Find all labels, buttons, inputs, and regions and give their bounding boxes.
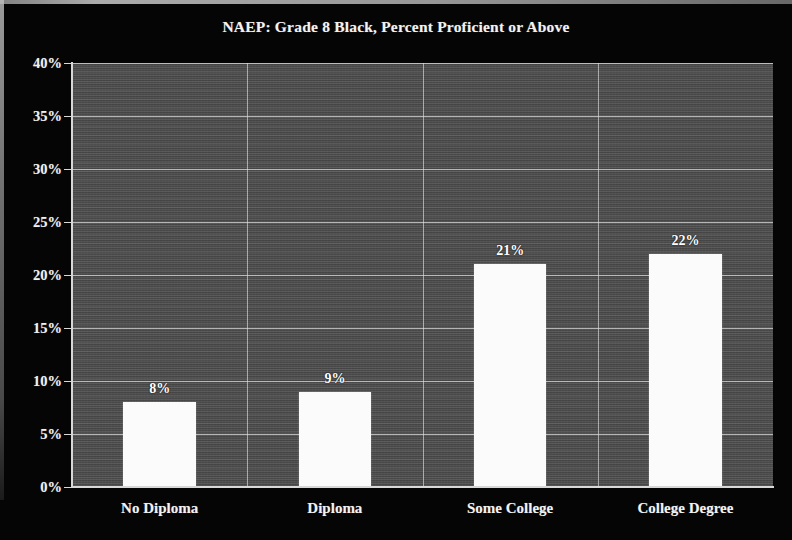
category-label: Diploma — [307, 500, 362, 517]
y-axis-tick — [64, 328, 72, 329]
chart-title: NAEP: Grade 8 Black, Percent Proficient … — [0, 18, 792, 36]
y-axis-tick-label: 0% — [4, 479, 62, 496]
gridline-vertical — [423, 63, 424, 487]
y-axis-tick — [64, 275, 72, 276]
bar — [649, 254, 722, 487]
x-axis-line — [71, 486, 774, 488]
y-axis-tick-label: 5% — [4, 426, 62, 443]
category-label: Some College — [467, 500, 553, 517]
bar-value-label: 21% — [496, 243, 524, 259]
y-axis-tick — [64, 487, 72, 488]
y-axis-tick — [64, 381, 72, 382]
y-axis-tick — [64, 222, 72, 223]
bar-value-label: 9% — [324, 371, 345, 387]
y-axis-tick — [64, 169, 72, 170]
bar-value-label: 22% — [671, 233, 699, 249]
y-axis-tick — [64, 63, 72, 64]
scan-edge-top — [0, 0, 792, 4]
y-axis-tick-label: 35% — [4, 108, 62, 125]
y-axis-tick-labels: 0%5%10%15%20%25%30%35%40% — [0, 0, 62, 540]
y-axis-tick — [64, 434, 72, 435]
bar-value-label: 8% — [149, 381, 170, 397]
bar — [474, 264, 547, 487]
category-label: College Degree — [637, 500, 733, 517]
plot-area — [72, 63, 773, 487]
chart-figure: NAEP: Grade 8 Black, Percent Proficient … — [0, 0, 792, 540]
y-axis-tick-label: 25% — [4, 214, 62, 231]
y-axis-tick — [64, 116, 72, 117]
category-label: No Diploma — [121, 500, 198, 517]
gridline-vertical — [598, 63, 599, 487]
y-axis-tick-label: 10% — [4, 373, 62, 390]
y-axis-tick-label: 30% — [4, 161, 62, 178]
y-axis-tick-label: 40% — [4, 55, 62, 72]
bar — [123, 402, 196, 487]
gridline-vertical — [247, 63, 248, 487]
y-axis-tick-label: 20% — [4, 267, 62, 284]
y-axis-tick-label: 15% — [4, 320, 62, 337]
bar — [299, 392, 372, 487]
